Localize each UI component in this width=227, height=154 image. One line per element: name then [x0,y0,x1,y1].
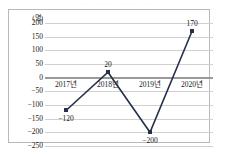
data-point-value-label: 170 [186,19,197,28]
data-point-marker [148,130,152,134]
top-cut-text: · ·· · ·· · · · ·· · · · ·· [0,0,227,8]
data-point-marker [106,70,110,74]
y-axis-tick-label: −100 [13,101,43,109]
y-axis-tick-label: 50 [13,60,43,68]
data-point-value-label: −120 [58,114,73,123]
data-point-marker [190,29,194,33]
y-axis-tick-label: 150 [13,33,43,41]
chart-screenshot: · ·· · ·· · · · ·· · · · ·· (명)200150100… [0,0,227,154]
series-line [45,23,213,146]
y-axis-tick-label: −200 [13,128,43,136]
y-axis-tick-label: −250 [13,142,43,150]
data-point-marker [64,108,68,112]
y-axis-tick-label: −50 [13,87,43,95]
data-point-value-label: 20 [104,60,112,69]
gridline [45,146,213,147]
plot-area: (명)200150100500−50−100−150−200−250 2017년… [45,23,213,146]
chart-frame: (명)200150100500−50−100−150−200−250 2017년… [8,9,210,143]
y-axis-tick-label: −150 [13,115,43,123]
data-point-value-label: −200 [142,136,157,145]
y-axis-tick-label: 100 [13,46,43,54]
y-axis-tick-label: 200 [13,19,43,27]
y-axis-tick-label: 0 [13,74,43,82]
